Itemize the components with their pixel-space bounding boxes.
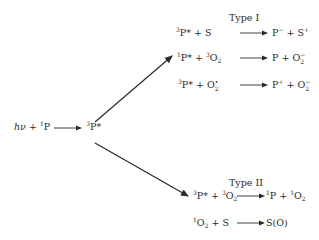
photon-energy: hν [14,121,26,132]
charge: + [278,78,283,85]
plus-sign: + [208,190,222,201]
plus-sign: + [283,79,297,90]
type-I-product-2: P + O−2 [272,52,305,64]
subscript: 2 [300,59,304,65]
reaction-arrow-icon [236,192,266,200]
spin-multiplicity: 3 [86,120,90,127]
species: O [294,190,302,201]
triplet-ps: P* [90,121,101,132]
plus-sign: + [276,190,290,201]
type-II-product-1: 1P + 1O2 [266,190,306,202]
sup-sub-stack: −2 [300,53,305,63]
type-II-product-2: S(O) [266,217,288,229]
superscript: 3 [176,26,180,33]
superscript: 1 [266,189,270,196]
type-II-reaction-2: 1O2 + S [193,217,229,229]
species: S(O) [266,217,288,228]
superscript: 3 [178,78,182,85]
plus-sign: + [208,217,222,228]
species: O [292,52,300,63]
species: S [297,27,304,38]
superscript: 3 [206,51,210,58]
subscript: 2 [302,195,306,202]
spin-multiplicity: 1 [40,120,44,127]
type-I-reaction-3: 3P* + O•2 [178,79,220,91]
species: P* [180,27,191,38]
subscript: 2 [215,86,219,92]
superscript: 1 [193,216,197,223]
superscript: 3 [193,189,197,196]
plus-sign: + [29,121,37,132]
superscript: 3 [222,189,226,196]
reaction-arrow-icon [236,219,266,227]
sup-sub-stack: −2 [305,80,310,90]
type-I-product-3: P+ + O−2 [272,79,310,91]
sup-sub-stack: •2 [215,80,220,90]
type-II-heading: Type II [229,177,263,189]
arrow-to-type-II [95,143,188,196]
reaction-arrow-icon [239,29,269,37]
plus-sign: + [193,79,207,90]
charge: − [278,26,283,33]
arrow-to-type-I [95,56,172,122]
species: P* [182,79,193,90]
species: S [205,27,212,38]
species: P* [181,52,192,63]
plus-sign: + [278,52,292,63]
type-II-reaction-1: 3P* + 3O2 [193,190,237,202]
type-I-heading: Type I [229,12,259,24]
superscript: 1 [290,189,294,196]
species: O [197,217,205,228]
reaction-arrow-icon [239,81,269,89]
plus-sign: + [192,52,206,63]
subscript: 2 [218,57,222,64]
reaction-arrow-icon [53,124,83,132]
plus-sign: + [283,27,297,38]
charge: + [304,26,309,33]
subscript: 2 [205,222,209,229]
species: O [226,190,234,201]
species: P* [197,190,208,201]
species: O [207,79,215,90]
initial-reaction: hν + 1P 3P* [14,121,101,133]
reaction-arrow-icon [239,54,269,62]
type-I-reaction-1: 3P* + S [176,27,212,39]
species: O [210,52,218,63]
type-I-reaction-2: 1P* + 3O2 [177,52,221,64]
subscript: 2 [305,86,309,92]
ground-state-ps: P [44,121,50,132]
plus-sign: + [191,27,205,38]
superscript: 1 [177,51,181,58]
species: O [297,79,305,90]
species: S [222,217,229,228]
type-I-product-1: P− + S+ [272,27,309,39]
